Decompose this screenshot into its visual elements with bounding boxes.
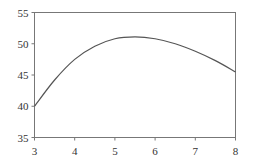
x-tick-label: 4	[72, 145, 78, 157]
y-axis-ticks: 3540455055	[18, 7, 35, 144]
y-tick-label: 50	[18, 38, 30, 50]
x-tick-label: 3	[32, 145, 38, 157]
y-tick-label: 40	[18, 100, 30, 112]
line-chart: 345678 3540455055	[0, 0, 255, 168]
x-tick-label: 7	[193, 145, 199, 157]
y-tick-label: 45	[18, 69, 30, 81]
y-tick-label: 55	[18, 7, 30, 19]
y-tick-label: 35	[18, 132, 30, 144]
x-tick-label: 8	[233, 145, 239, 157]
x-tick-label: 6	[152, 145, 158, 157]
x-tick-label: 5	[112, 145, 118, 157]
data-line	[35, 37, 236, 106]
plot-frame	[35, 13, 236, 138]
x-axis-ticks: 345678	[32, 138, 239, 157]
